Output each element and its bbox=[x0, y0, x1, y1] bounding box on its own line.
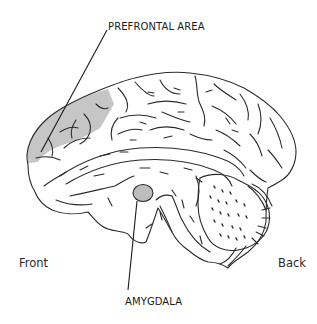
cerebellum bbox=[198, 174, 269, 250]
amygdala-label: AMYGDALA bbox=[125, 296, 182, 307]
front-direction-label: Front bbox=[19, 256, 48, 270]
amygdala-leader-line bbox=[128, 201, 137, 290]
corpus-callosum bbox=[60, 147, 244, 176]
prefrontal-area-label: PREFRONTAL AREA bbox=[108, 21, 205, 32]
back-direction-label: Back bbox=[278, 256, 306, 270]
brain-diagram bbox=[0, 0, 317, 324]
amygdala-region bbox=[133, 185, 153, 202]
